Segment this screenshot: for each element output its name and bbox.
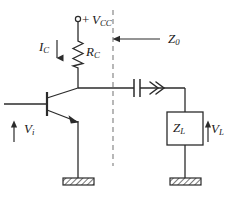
ground-symbol-left — [63, 178, 94, 185]
reference-impedance-label: Z0 — [168, 32, 180, 47]
input-voltage-arrow-head — [11, 121, 17, 128]
collector-current-label: IC — [39, 40, 49, 55]
input-voltage-label: Vi — [24, 122, 34, 137]
transistor-emitter-arrow — [69, 115, 79, 123]
collector-resistor — [73, 38, 83, 72]
load-voltage-label: VL — [211, 122, 224, 137]
collector-resistor-label: RC — [86, 45, 100, 60]
transistor-collector-lead — [47, 88, 78, 98]
supply-terminal-circle — [75, 16, 80, 21]
ground-symbol-right — [170, 178, 201, 185]
load-impedance-label: ZL — [173, 121, 185, 136]
circuit-diagram: + VCC IC RC Z0 Vi ZL VL — [0, 0, 235, 197]
supply-label: + VCC — [82, 13, 112, 28]
circuit-schematic-canvas — [0, 0, 235, 197]
